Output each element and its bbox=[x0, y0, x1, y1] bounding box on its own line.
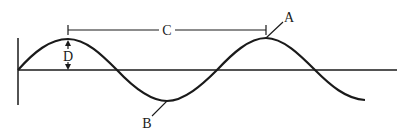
arrowhead-up-icon bbox=[65, 40, 71, 46]
wavelength-bracket-c: C bbox=[68, 23, 266, 38]
arrowhead-down-icon bbox=[65, 64, 71, 70]
leader-line-b bbox=[152, 101, 167, 116]
label-d: D bbox=[63, 49, 73, 64]
amplitude-arrow-d: D bbox=[63, 40, 73, 70]
wave-diagram: C D A B bbox=[0, 0, 409, 135]
trough-callout-b: B bbox=[142, 101, 167, 131]
label-a: A bbox=[284, 10, 295, 25]
crest-callout-a: A bbox=[266, 10, 295, 38]
label-c: C bbox=[162, 23, 171, 38]
leader-line-a bbox=[266, 22, 283, 38]
label-b: B bbox=[142, 116, 151, 131]
